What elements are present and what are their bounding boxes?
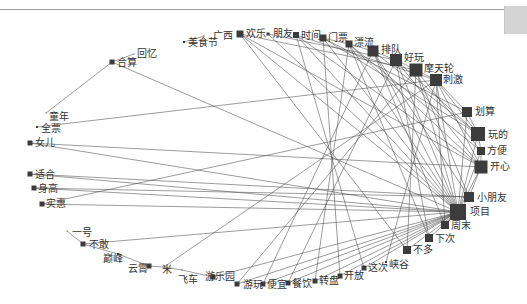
node-全票[interactable] [36, 126, 38, 128]
edge-全票-刺激 [37, 80, 436, 127]
node-开心[interactable] [475, 161, 488, 174]
node-label: 玩的 [488, 130, 508, 140]
node-label: 方便 [487, 146, 507, 156]
edge-时间-这次 [296, 35, 364, 268]
node-label: 身高 [38, 184, 58, 194]
node-童年[interactable] [46, 113, 47, 114]
node-飞车[interactable] [182, 270, 183, 271]
node-label: 广西 [213, 31, 233, 41]
node-转盘[interactable] [313, 279, 318, 284]
node-适合[interactable] [28, 172, 33, 177]
node-label: 峡谷 [389, 260, 409, 270]
node-label: 转盘 [319, 276, 339, 286]
edge-欢乐-项目 [240, 34, 458, 212]
node-label: 米 [162, 265, 172, 275]
node-合算[interactable] [110, 60, 115, 65]
node-label: 摩天轮 [424, 64, 454, 74]
node-label: 全票 [41, 124, 61, 134]
node-周末[interactable] [441, 221, 449, 229]
edge-时间-项目 [296, 35, 458, 212]
edge-摩天轮-游玩 [237, 70, 416, 284]
node-label: 不敢 [89, 240, 109, 250]
node-回忆[interactable] [134, 54, 135, 55]
node-label: 刺激 [443, 75, 463, 85]
node-方便[interactable] [477, 147, 485, 155]
node-label: 不多 [413, 245, 433, 255]
node-label: 游乐园 [205, 272, 235, 282]
node-label: 门票 [328, 33, 348, 43]
edge-合算-童年 [46, 62, 112, 113]
node-刺激[interactable] [430, 74, 442, 86]
node-女儿[interactable] [28, 141, 33, 146]
node-label: 餐饮 [292, 279, 312, 289]
node-label: 朋友 [273, 29, 293, 39]
node-label: 开心 [490, 162, 510, 172]
edge-实惠-划算 [42, 112, 467, 204]
edge-欢乐-不多 [240, 34, 407, 250]
node-不敢[interactable] [81, 242, 86, 247]
node-好玩[interactable] [390, 54, 402, 66]
node-游玩[interactable] [235, 282, 240, 287]
edge-身高-项目 [34, 188, 458, 212]
node-实惠[interactable] [40, 202, 45, 207]
edge-刺激-开心 [436, 80, 481, 167]
node-项目[interactable] [450, 204, 466, 220]
node-label: 下次 [435, 234, 455, 244]
node-朋友[interactable] [267, 33, 270, 36]
node-label: 这次 [368, 263, 388, 273]
node-label: 便宜 [267, 280, 287, 290]
node-身高[interactable] [32, 186, 37, 191]
node-label: 小朋友 [477, 193, 507, 203]
node-玩的[interactable] [471, 127, 485, 141]
edge-刺激-项目 [436, 80, 458, 212]
node-label: 划算 [475, 107, 495, 117]
node-摩天轮[interactable] [410, 64, 423, 77]
node-下次[interactable] [425, 234, 433, 242]
edge-摩天轮-项目 [416, 70, 458, 212]
node-小朋友[interactable] [464, 192, 474, 202]
node-label: 云霄 [128, 264, 148, 274]
node-label: 实惠 [46, 199, 66, 209]
node-label: 周末 [451, 221, 471, 231]
node-label: 适合 [35, 170, 55, 180]
node-label: 欢乐 [246, 29, 266, 39]
node-label: 童年 [49, 112, 69, 122]
node-划算[interactable] [462, 107, 472, 117]
node-一号[interactable] [67, 231, 68, 232]
node-label: 合算 [117, 58, 137, 68]
node-label: 回忆 [137, 49, 157, 59]
node-label: 排队 [381, 45, 401, 55]
node-label: 时间 [301, 31, 321, 41]
node-美食节[interactable] [183, 41, 185, 43]
node-label: 项目 [470, 207, 490, 217]
node-label: 漂流 [354, 38, 374, 48]
node-label: 好玩 [404, 53, 424, 63]
node-label: 女儿 [35, 138, 55, 148]
node-label: 一号 [72, 228, 92, 238]
node-时间[interactable] [293, 32, 299, 38]
node-label: 开放 [344, 271, 364, 281]
edge-朋友-项目 [268, 34, 458, 212]
node-不多[interactable] [403, 246, 411, 254]
edge-米-刺激 [164, 80, 436, 267]
node-label: 飞车 [178, 275, 198, 285]
node-label: 巅峰 [103, 254, 123, 264]
node-欢乐[interactable] [237, 31, 244, 38]
edge-身高-小朋友 [34, 188, 469, 197]
node-label: 游玩 [243, 280, 263, 290]
